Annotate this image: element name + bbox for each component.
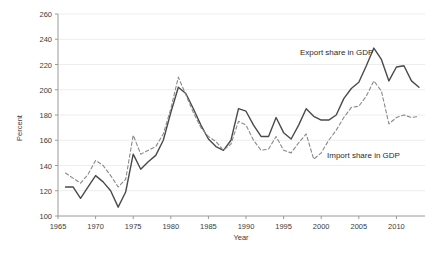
data-series	[66, 48, 419, 207]
x-tick-label: 1995	[275, 222, 292, 231]
y-axis-title: Percent	[15, 114, 24, 141]
import-series-label: Import share in GDP	[327, 151, 400, 160]
x-tick-label: 1985	[200, 222, 217, 231]
y-tick-label: 220	[39, 61, 52, 70]
x-tick-label: 1980	[162, 222, 179, 231]
x-tick-label: 1970	[87, 222, 104, 231]
export-series-label: Export share in GDP	[300, 48, 373, 57]
y-tick-labels: 100120140160180200220240260	[39, 10, 58, 221]
y-tick-label: 260	[39, 10, 52, 19]
grid-lines	[58, 14, 425, 191]
x-axis-title: Year	[233, 233, 249, 242]
y-tick-label: 180	[39, 111, 52, 120]
chart-container: 100120140160180200220240260 196519701975…	[0, 0, 448, 255]
y-tick-label: 120	[39, 187, 52, 196]
y-tick-label: 140	[39, 162, 52, 171]
x-tick-label: 2005	[350, 222, 367, 231]
y-tick-label: 160	[39, 136, 52, 145]
x-tick-label: 2010	[388, 222, 405, 231]
series-line-import	[66, 77, 419, 187]
series-line-export	[66, 48, 419, 207]
line-chart: 100120140160180200220240260 196519701975…	[0, 0, 448, 255]
x-tick-label: 1975	[125, 222, 142, 231]
x-tick-label: 1990	[238, 222, 255, 231]
x-tick-label: 1965	[50, 222, 67, 231]
y-tick-label: 240	[39, 35, 52, 44]
y-tick-label: 100	[39, 212, 52, 221]
x-tick-labels: 1965197019751980198519901995200020052010	[50, 216, 405, 231]
x-tick-label: 2000	[313, 222, 330, 231]
y-tick-label: 200	[39, 86, 52, 95]
